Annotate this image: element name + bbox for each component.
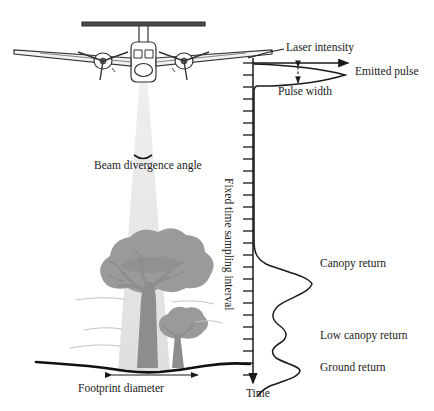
label-laser-intensity: Laser intensity — [286, 42, 354, 54]
label-pulse-width: Pulse width — [278, 86, 332, 98]
label-fixed-time-sampling-interval: Fixed time sampling interval — [223, 178, 235, 311]
label-low-canopy-return: Low canopy return — [320, 330, 408, 342]
time-axis-ticks — [243, 63, 253, 375]
return-waveform — [254, 240, 312, 396]
figure-canvas — [0, 0, 434, 411]
label-emitted-pulse: Emitted pulse — [355, 66, 419, 78]
time-axis — [243, 58, 253, 383]
label-canopy-return: Canopy return — [320, 258, 386, 270]
label-time-axis: Time — [246, 388, 270, 400]
aircraft-front-view-icon — [14, 22, 272, 82]
label-footprint-diameter: Footprint diameter — [78, 383, 164, 395]
lidar-waveform-figure: Laser intensity Emitted pulse Pulse widt… — [0, 0, 434, 411]
label-beam-divergence-angle: Beam divergence angle — [94, 160, 202, 172]
label-ground-return: Ground return — [320, 362, 385, 374]
